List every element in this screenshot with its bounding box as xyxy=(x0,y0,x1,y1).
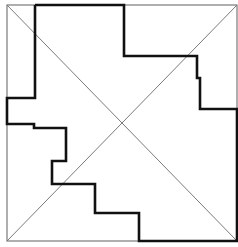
diagram-canvas xyxy=(0,0,238,247)
